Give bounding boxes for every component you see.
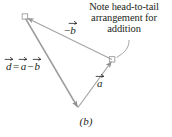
label-d-equation: d = a − b — [6, 60, 40, 72]
vector-symbol-d: d — [6, 60, 12, 72]
vector-symbol-b: b — [34, 60, 40, 72]
annotation-line-1: Note head-to-tail — [78, 1, 170, 12]
annotation-leader-line — [117, 40, 130, 58]
symbol-d: d — [6, 60, 12, 72]
equals-sign: = — [12, 60, 21, 72]
vector-a-line — [78, 62, 112, 108]
annotation-text: Note head-to-tail arrangement for additi… — [78, 1, 170, 35]
label-minus-b: − b — [64, 24, 76, 36]
label-a: a — [97, 77, 103, 89]
symbol-b: b — [70, 24, 76, 36]
vector-symbol-a: a — [97, 77, 103, 89]
vertex-marker-tip — [22, 14, 27, 19]
symbol-a: a — [21, 60, 27, 72]
symbol-b: b — [34, 60, 40, 72]
minus-sign: − — [26, 60, 34, 72]
annotation-line-3: addition — [78, 23, 170, 34]
symbol-a: a — [97, 77, 103, 89]
vector-symbol-a: a — [21, 60, 27, 72]
figure-caption: (b) — [0, 116, 172, 127]
vector-subtraction-figure: Note head-to-tail arrangement for additi… — [0, 0, 172, 137]
annotation-line-2: arrangement for — [78, 12, 170, 23]
vector-symbol-b: b — [70, 24, 76, 36]
